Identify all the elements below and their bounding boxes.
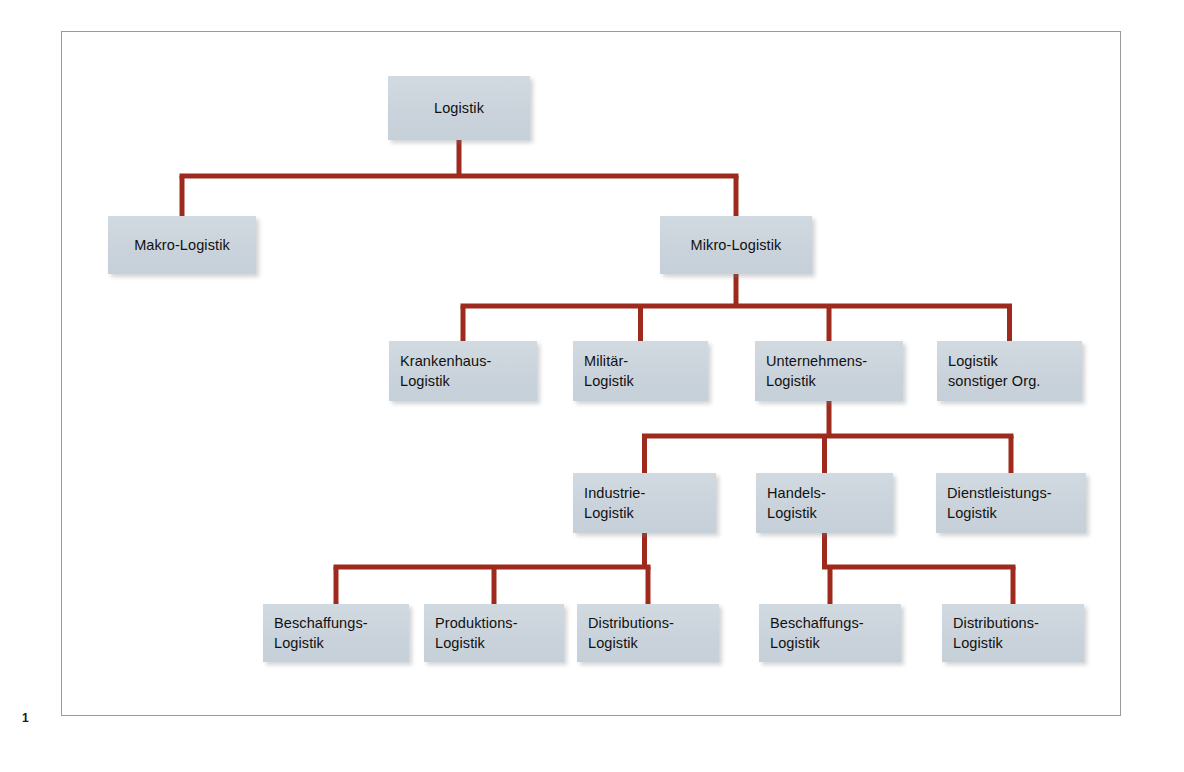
node-label-line2: Logistik [770, 633, 820, 653]
diagram-page: LogistikMakro-LogistikMikro-LogistikKran… [0, 0, 1184, 772]
node-label-line1: Logistik [434, 98, 484, 118]
node-label-line1: Beschaffungs- [770, 613, 864, 633]
node-label-line2: Logistik [400, 371, 450, 391]
node-label-line1: Handels- [767, 483, 826, 503]
node-label-line2: Logistik [584, 503, 634, 523]
node-distributions-logistik-i[interactable]: Distributions-Logistik [577, 604, 719, 662]
node-label-line1: Makro-Logistik [134, 235, 230, 255]
node-label-line1: Mikro-Logistik [691, 235, 782, 255]
node-beschaffungs-logistik-h[interactable]: Beschaffungs-Logistik [759, 604, 901, 662]
node-label-line2: Logistik [588, 633, 638, 653]
node-label-line2: Logistik [953, 633, 1003, 653]
node-beschaffungs-logistik-i[interactable]: Beschaffungs-Logistik [263, 604, 409, 662]
node-dienstleistungs-logistik[interactable]: Dienstleistungs-Logistik [936, 473, 1086, 533]
node-label-line2: Logistik [767, 503, 817, 523]
node-label-line1: Produktions- [435, 613, 518, 633]
node-unternehmens-logistik[interactable]: Unternehmens-Logistik [755, 341, 903, 401]
node-label-line1: Distributions- [953, 613, 1039, 633]
node-label-line2: Logistik [274, 633, 324, 653]
node-logistik-sonstiger[interactable]: Logistiksonstiger Org. [937, 341, 1082, 401]
node-logistik[interactable]: Logistik [388, 76, 530, 140]
node-label-line1: Unternehmens- [766, 351, 867, 371]
node-mikro-logistik[interactable]: Mikro-Logistik [660, 216, 812, 274]
node-handels-logistik[interactable]: Handels-Logistik [756, 473, 893, 533]
node-militaer-logistik[interactable]: Militär-Logistik [573, 341, 708, 401]
node-label-line1: Militär- [584, 351, 628, 371]
node-label-line2: Logistik [584, 371, 634, 391]
node-label-line1: Dienstleistungs- [947, 483, 1052, 503]
node-label-line1: Beschaffungs- [274, 613, 368, 633]
node-produktions-logistik[interactable]: Produktions-Logistik [424, 604, 564, 662]
node-makro-logistik[interactable]: Makro-Logistik [108, 216, 256, 274]
node-label-line2: Logistik [435, 633, 485, 653]
node-label-line1: Krankenhaus- [400, 351, 491, 371]
node-distributions-logistik-h[interactable]: Distributions-Logistik [942, 604, 1084, 662]
node-krankenhaus-logistik[interactable]: Krankenhaus-Logistik [389, 341, 537, 401]
node-label-line2: Logistik [947, 503, 997, 523]
node-label-line1: Industrie- [584, 483, 645, 503]
node-label-line2: sonstiger Org. [948, 371, 1040, 391]
node-label-line1: Logistik [948, 351, 998, 371]
node-industrie-logistik[interactable]: Industrie-Logistik [573, 473, 716, 533]
node-label-line1: Distributions- [588, 613, 674, 633]
node-label-line2: Logistik [766, 371, 816, 391]
page-number: 1 [22, 711, 29, 725]
